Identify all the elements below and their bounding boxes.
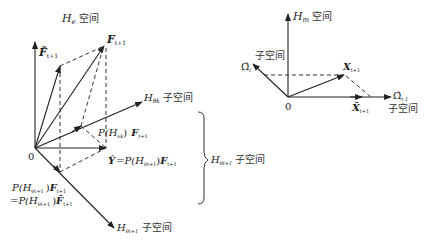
origin-label-left: 0 (28, 151, 34, 162)
projection-t1-line1: P(Hθt+1)Ft+1 (11, 182, 66, 194)
omega-t1-subspace-text: 子空间 (388, 102, 418, 114)
omega-t-subspace-text: 子空间 (255, 49, 285, 61)
omega-t-label: Ω̂t (241, 61, 252, 73)
diagram-canvas: He空间 Ft+1 F̃t+1 Hθk子空间 P(Hek)Ft+1 0 Ŷ=P(… (0, 0, 430, 252)
curly-brace (198, 112, 208, 204)
f-label: Ft+1 (106, 33, 126, 46)
f-tilde-label: F̃t+1 (38, 46, 58, 59)
x-tilde-label: X̃t+1 (351, 102, 369, 114)
f-tilde-vector (35, 66, 60, 148)
origin-label-right: 0 (285, 101, 291, 112)
omega-t1-label: Ω̂t-1 (393, 90, 408, 102)
projection-t1-marker (54, 166, 60, 172)
x-label: Xt+1 (342, 61, 360, 73)
omega-t-axis (253, 64, 288, 97)
right-title: Hm空间 (292, 10, 332, 24)
y-hat-label: Ŷ=P(Hθt+1)Ft+1 (108, 155, 177, 167)
projection-t1-line2: =P(Hθt+1)F̃t+1 (10, 195, 73, 207)
left-title: He空间 (61, 12, 99, 26)
projection-k-label: P(Hek)Ft+1 (97, 127, 148, 139)
h-theta-k-label: Hθk子空间 (143, 91, 193, 104)
x-vector (288, 75, 344, 97)
brace-label: Hθt+1子空间 (210, 153, 265, 166)
left-dashed-lines (60, 46, 106, 172)
h-theta-t1-axis-label: Hθt+1子空间 (116, 221, 172, 234)
